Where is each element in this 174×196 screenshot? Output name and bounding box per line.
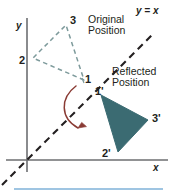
vertex-label-1: 1 — [85, 74, 91, 86]
original-triangle — [33, 25, 84, 80]
diagram-canvas — [0, 0, 174, 196]
reflected-triangle — [101, 95, 148, 152]
reflection-diagram: y x y = x Original Position Reflected Po… — [0, 0, 174, 196]
reflected-position-caption: Reflected Position — [112, 66, 156, 88]
vertex-label-3-prime: 3' — [152, 113, 161, 125]
vertex-label-2-prime: 2' — [102, 148, 111, 160]
mirror-line-label: y = x — [136, 6, 159, 17]
reflection-arrow — [64, 86, 86, 131]
vertex-label-1-prime: 1' — [95, 86, 104, 98]
original-position-caption: Original Position — [88, 14, 125, 36]
vertex-label-3: 3 — [70, 15, 76, 27]
vertex-label-2: 2 — [19, 55, 25, 67]
y-axis-label: y — [16, 21, 22, 32]
x-axis-label: x — [153, 163, 159, 174]
